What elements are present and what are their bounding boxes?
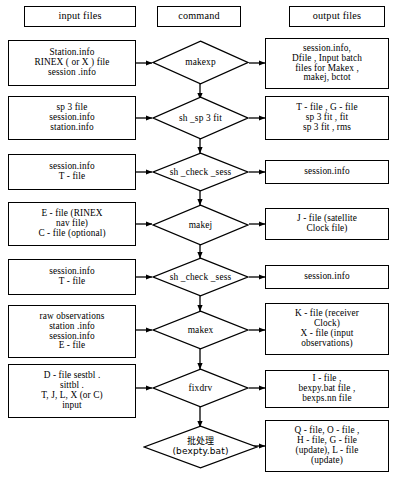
input-box-text: E - file (RINEX nav file) C - file (opti… (38, 209, 105, 239)
command-label: makexp (152, 40, 249, 85)
input-box-makex: raw observations station .info session.i… (8, 305, 136, 358)
input-box-text: session.info T - file (49, 162, 94, 182)
input-box-sh-check-sess-2: session.info T - file (8, 259, 136, 295)
output-box-text: I - file , bexpy.bat file , bexps.nn fil… (299, 374, 356, 404)
input-box-sh-check-sess-1: session.info T - file (8, 154, 136, 190)
input-box-text: raw observations station .info session.i… (40, 312, 105, 351)
output-box-text: K - file (receiver Clock) X - file (inpu… (295, 309, 359, 348)
command-label: makej (152, 204, 249, 246)
command-diamond-sh-check-sess-2: sh _check _sess (152, 257, 249, 297)
output-box-text: session.info (304, 272, 349, 282)
command-diamond-sh-sp3fit: sh _sp 3 fit (152, 96, 249, 140)
output-box-sh-check-sess-2: session.info (265, 265, 389, 289)
command-label: sh _sp 3 fit (152, 96, 249, 140)
command-label: fixdrv (152, 368, 249, 408)
output-box-sh-sp3fit: T - file , G - file sp 3 fit , fit sp 3 … (265, 96, 389, 140)
column-header-label: input files (58, 11, 101, 22)
command-label: 批处理 (bexpty.bat) (143, 425, 258, 469)
output-box-text: J - file (satellite Clock file) (297, 214, 357, 234)
input-box-makexp: Station.info RINEX ( or X ) file session… (8, 40, 136, 86)
column-header-input-files: input files (24, 6, 136, 27)
command-diamond-sh-check-sess-1: sh _check _sess (152, 152, 249, 192)
command-diamond-fixdrv: fixdrv (152, 368, 249, 408)
column-header-label: output files (313, 11, 362, 22)
output-box-makexp: session.info, Dfile , Input batch files … (265, 38, 389, 89)
input-box-text: D - file sestbl . sittbl . T, J, L, X (o… (41, 371, 102, 410)
output-box-makex: K - file (receiver Clock) X - file (inpu… (265, 303, 389, 355)
command-diamond-batch: 批处理 (bexpty.bat) (143, 425, 258, 469)
command-label: makex (152, 310, 249, 350)
output-box-makej: J - file (satellite Clock file) (265, 208, 389, 240)
output-box-text: T - file , G - file sp 3 fit , fit sp 3 … (296, 103, 357, 133)
output-box-batch: Q - file, O - file , H - file, G - file … (265, 420, 389, 472)
command-diamond-makex: makex (152, 310, 249, 350)
flowchart: input files command output files Station… (0, 0, 396, 490)
input-box-text: Station.info RINEX ( or X ) file session… (35, 48, 110, 78)
command-label: sh _check _sess (152, 257, 249, 297)
column-header-output-files: output files (289, 6, 385, 27)
output-box-text: session.info (304, 167, 349, 177)
output-box-fixdrv: I - file , bexpy.bat file , bexps.nn fil… (265, 370, 389, 408)
output-box-text: Q - file, O - file , H - file, G - file … (295, 426, 360, 465)
input-box-fixdrv: D - file sestbl . sittbl . T, J, L, X (o… (8, 364, 136, 418)
input-box-text: sp 3 file session.info station.info (49, 103, 94, 133)
output-box-sh-check-sess-1: session.info (265, 160, 389, 184)
command-diamond-makej: makej (152, 204, 249, 246)
column-header-label: command (178, 11, 220, 22)
input-box-makej: E - file (RINEX nav file) C - file (opti… (8, 202, 136, 246)
command-label: sh _check _sess (152, 152, 249, 192)
input-box-sh-sp3fit: sp 3 file session.info station.info (8, 96, 136, 140)
input-box-text: session.info T - file (49, 267, 94, 287)
column-header-command: command (157, 6, 241, 27)
output-box-text: session.info, Dfile , Input batch files … (292, 44, 362, 83)
command-diamond-makexp: makexp (152, 40, 249, 85)
